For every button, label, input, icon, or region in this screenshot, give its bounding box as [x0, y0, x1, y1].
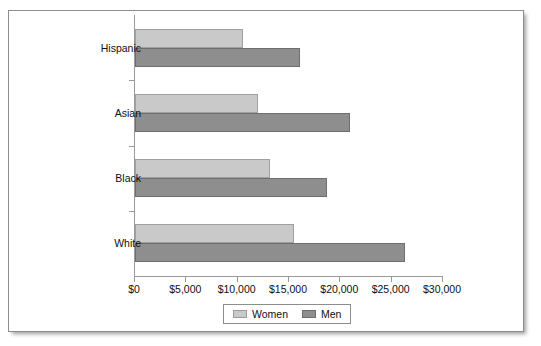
x-axis-tick: [185, 277, 186, 282]
bar-black-men[interactable]: [135, 178, 327, 197]
x-axis-tick-label: $0: [128, 283, 140, 296]
bar-black-women[interactable]: [135, 159, 270, 178]
bar-hispanic-women[interactable]: [135, 29, 243, 48]
plot-area: HispanicAsianBlackWhite $0$5,000$10,000$…: [9, 11, 525, 291]
legend-swatch-women-icon: [233, 310, 247, 318]
legend-item-men[interactable]: Men: [302, 308, 341, 320]
x-axis-tick-label: $30,000: [423, 283, 461, 296]
category-label-black: Black: [115, 172, 141, 184]
x-axis-tick-label: $5,000: [169, 283, 201, 296]
bar-white-men[interactable]: [135, 243, 405, 262]
screenshot-root: HispanicAsianBlackWhite $0$5,000$10,000$…: [0, 0, 541, 346]
bar-asian-men[interactable]: [135, 113, 350, 132]
x-axis-tick: [442, 277, 443, 282]
bar-white-women[interactable]: [135, 224, 294, 243]
chart-area: HispanicAsianBlackWhite $0$5,000$10,000$…: [9, 11, 525, 333]
chart-figure-frame: HispanicAsianBlackWhite $0$5,000$10,000$…: [8, 10, 524, 332]
y-axis-tick: [129, 146, 134, 147]
x-axis-tick-label: $10,000: [218, 283, 256, 296]
category-label-hispanic: Hispanic: [101, 42, 141, 54]
x-axis-tick-label: $15,000: [269, 283, 307, 296]
legend-label-men: Men: [321, 308, 341, 320]
x-axis-tick: [339, 277, 340, 282]
x-axis-tick: [391, 277, 392, 282]
legend-item-women[interactable]: Women: [233, 308, 288, 320]
chart-legend: Women Men: [223, 304, 351, 324]
category-label-asian: Asian: [115, 107, 141, 119]
bar-asian-women[interactable]: [135, 94, 258, 113]
x-axis-tick: [237, 277, 238, 282]
x-axis-tick-label: $20,000: [320, 283, 358, 296]
y-axis-tick: [129, 80, 134, 81]
x-axis-tick-label: $25,000: [372, 283, 410, 296]
category-label-white: White: [114, 237, 141, 249]
bar-hispanic-men[interactable]: [135, 48, 300, 67]
x-axis-tick: [288, 277, 289, 282]
legend-swatch-men-icon: [302, 310, 316, 318]
legend-label-women: Women: [252, 308, 288, 320]
x-axis-tick: [134, 277, 135, 282]
y-axis-tick: [129, 211, 134, 212]
